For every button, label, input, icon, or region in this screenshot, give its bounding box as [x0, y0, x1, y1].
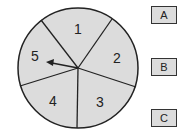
option-c-label: C — [160, 112, 168, 124]
section-label-1: 1 — [74, 21, 82, 37]
section-label-5: 5 — [31, 48, 39, 64]
option-a[interactable]: A — [151, 6, 177, 24]
section-label-3: 3 — [96, 94, 104, 110]
section-label-4: 4 — [49, 93, 57, 109]
option-b-label: B — [160, 61, 167, 73]
section-label-2: 2 — [113, 50, 121, 66]
option-b[interactable]: B — [151, 58, 177, 76]
option-a-label: A — [160, 9, 167, 21]
option-c[interactable]: C — [151, 109, 177, 127]
